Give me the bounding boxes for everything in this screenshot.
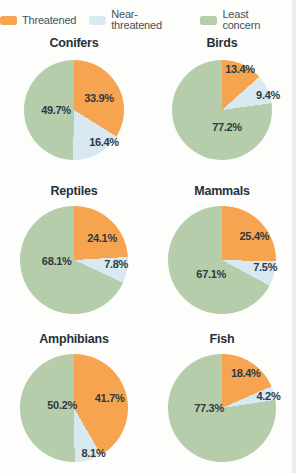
- pie-chart-mammals: Mammals 25.4%7.5%67.1%: [148, 178, 296, 326]
- slice-label-threatened: 13.4%: [225, 63, 255, 74]
- slice-label-least-concern: 49.7%: [41, 104, 71, 115]
- legend-label: Near-threatened: [111, 9, 187, 31]
- legend-label: Threatened: [22, 15, 76, 26]
- pie-chart-reptiles: Reptiles 24.1%7.8%68.1%: [0, 178, 148, 326]
- threatened-swatch-icon: [0, 16, 17, 25]
- pie-grid: Conifers 33.9%16.4%49.7% Birds 13.4%9.4%…: [0, 30, 296, 473]
- slice-label-threatened: 25.4%: [240, 230, 270, 241]
- pie-conifers: 33.9%16.4%49.7%: [24, 60, 124, 160]
- pie-title-mammals: Mammals: [194, 185, 250, 198]
- pie-title-fish: Fish: [210, 333, 235, 346]
- slice-label-least-concern: 77.3%: [194, 402, 224, 413]
- pie-title-amphibians: Amphibians: [39, 333, 109, 346]
- slice-label-near-threatened: 7.8%: [104, 258, 128, 269]
- pie-chart-conifers: Conifers 33.9%16.4%49.7%: [0, 30, 148, 178]
- legend-label: Least concern: [222, 9, 288, 31]
- slice-label-least-concern: 68.1%: [42, 255, 72, 266]
- slice-label-least-concern: 67.1%: [196, 268, 226, 279]
- pie-fish: 18.4%4.2%77.3%: [168, 354, 276, 462]
- slice-label-near-threatened: 7.5%: [253, 262, 277, 273]
- pie-title-birds: Birds: [207, 37, 238, 50]
- pie-amphibians: 41.7%8.1%50.2%: [20, 354, 128, 462]
- slice-label-least-concern: 50.2%: [47, 400, 77, 411]
- slice-label-threatened: 18.4%: [231, 367, 261, 378]
- slice-label-near-threatened: 16.4%: [89, 136, 119, 147]
- pie-mammals: 25.4%7.5%67.1%: [168, 206, 276, 314]
- legend: Threatened Near-threatened Least concern: [0, 9, 288, 31]
- legend-item-threatened: Threatened: [0, 15, 76, 26]
- slice-label-threatened: 33.9%: [84, 92, 114, 103]
- page-edge-divider: [292, 0, 296, 473]
- legend-item-near-threatened: Near-threatened: [89, 9, 187, 31]
- pie-birds: 13.4%9.4%77.2%: [172, 60, 272, 160]
- pie-chart-fish: Fish 18.4%4.2%77.3%: [148, 326, 296, 473]
- pie-chart-birds: Birds 13.4%9.4%77.2%: [148, 30, 296, 178]
- pie-title-conifers: Conifers: [49, 37, 98, 50]
- pie-reptiles: 24.1%7.8%68.1%: [20, 206, 128, 314]
- slice-label-least-concern: 77.2%: [212, 121, 242, 132]
- pie-chart-amphibians: Amphibians 41.7%8.1%50.2%: [0, 326, 148, 473]
- legend-item-least-concern: Least concern: [200, 9, 288, 31]
- pie-title-reptiles: Reptiles: [50, 185, 97, 198]
- slice-label-threatened: 41.7%: [95, 392, 125, 403]
- slice-label-near-threatened: 4.2%: [257, 390, 281, 401]
- least-concern-swatch-icon: [200, 16, 217, 25]
- slice-label-threatened: 24.1%: [87, 232, 117, 243]
- slice-label-near-threatened: 8.1%: [82, 447, 106, 458]
- slice-label-near-threatened: 9.4%: [256, 89, 280, 100]
- near-threatened-swatch-icon: [89, 16, 106, 25]
